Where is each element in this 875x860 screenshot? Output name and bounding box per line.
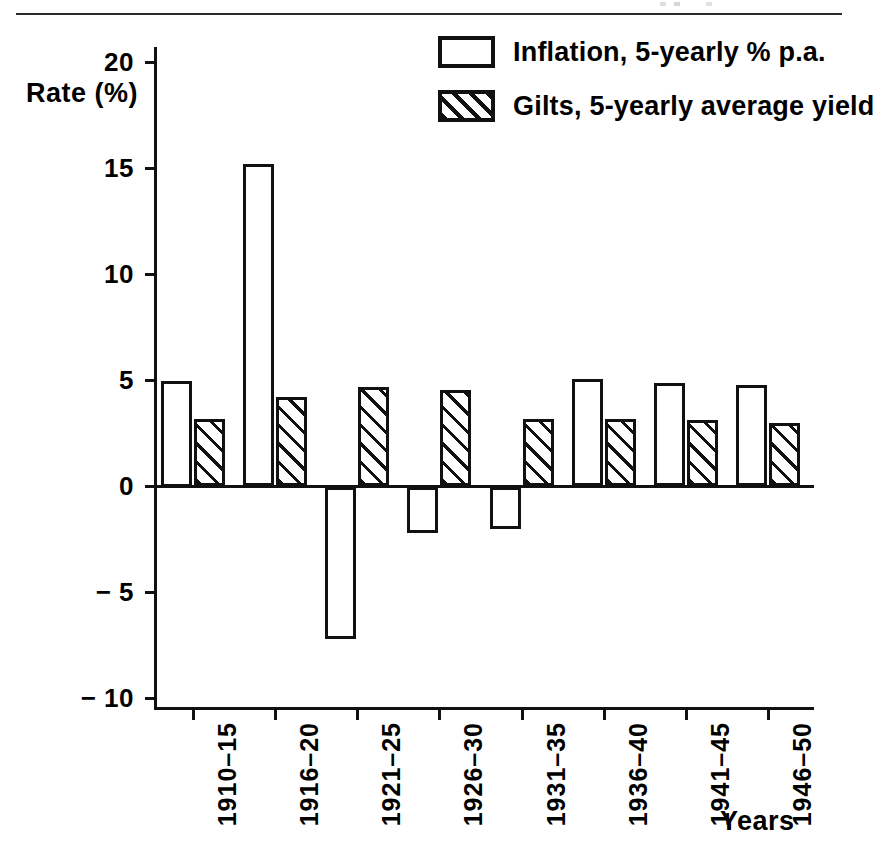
y-tick-10 <box>145 273 156 276</box>
y-tick-neg10 <box>145 697 156 700</box>
legend-label-gilts: Gilts, 5-yearly average yield <box>513 91 875 122</box>
bar-open-1921–25 <box>325 487 356 640</box>
bar-open-1910–15 <box>161 381 192 487</box>
legend-swatch-open-box <box>438 36 495 68</box>
y-tick-label-15: 15 <box>78 155 134 181</box>
bar-hatched-1936–40 <box>605 419 636 487</box>
x-tick-label-7: 1946–50 <box>788 722 817 826</box>
y-tick-5 <box>145 379 156 382</box>
x-axis-line <box>154 707 814 710</box>
bar-hatched-1910–15 <box>194 419 225 487</box>
bar-hatched-1946–50 <box>769 423 800 487</box>
y-tick-label-neg10: − 10 <box>78 685 134 711</box>
y-tick-0 <box>145 485 156 488</box>
chart-legend: Inflation, 5-yearly % p.a. Gilts, 5-year… <box>438 36 818 144</box>
bar-open-1926–30 <box>407 487 438 534</box>
y-tick-label-0: 0 <box>78 473 134 499</box>
y-tick-neg5 <box>145 591 156 594</box>
x-tick-2 <box>356 707 359 720</box>
legend-label-inflation: Inflation, 5-yearly % p.a. <box>513 37 826 68</box>
bar-hatched-1926–30 <box>440 390 471 486</box>
x-tick-1 <box>274 707 277 720</box>
bar-hatched-1921–25 <box>358 387 389 487</box>
bar-open-1936–40 <box>572 379 603 486</box>
bar-open-1946–50 <box>736 385 767 487</box>
bar-hatched-1931–35 <box>523 419 554 487</box>
x-tick-5 <box>603 707 606 720</box>
x-tick-label-0: 1910–15 <box>213 722 242 826</box>
bar-open-1931–35 <box>490 487 521 529</box>
x-tick-0 <box>192 707 195 720</box>
x-tick-6 <box>685 707 688 720</box>
x-tick-3 <box>438 707 441 720</box>
y-axis-title: Rate (%) <box>26 78 138 109</box>
y-axis-line <box>154 47 157 709</box>
bar-open-1941–45 <box>654 383 685 487</box>
bar-open-1916–20 <box>243 164 274 486</box>
x-tick-label-3: 1926–30 <box>459 722 488 826</box>
x-tick-label-2: 1921–25 <box>377 722 406 826</box>
x-tick-label-6: 1941–45 <box>706 722 735 826</box>
y-tick-label-20: 20 <box>78 49 134 75</box>
x-tick-label-1: 1916–20 <box>295 722 324 826</box>
y-tick-label-5: 5 <box>78 367 134 393</box>
y-tick-label-neg5: − 5 <box>78 579 134 605</box>
legend-item-inflation: Inflation, 5-yearly % p.a. <box>438 36 818 68</box>
x-tick-7 <box>767 707 770 720</box>
legend-swatch-hatched-box <box>438 90 495 122</box>
bar-hatched-1941–45 <box>687 420 718 487</box>
x-tick-label-5: 1936–40 <box>624 722 653 826</box>
y-tick-15 <box>145 167 156 170</box>
x-tick-4 <box>521 707 524 720</box>
legend-item-gilts: Gilts, 5-yearly average yield <box>438 90 818 122</box>
y-tick-label-10: 10 <box>78 261 134 287</box>
bar-hatched-1916–20 <box>276 397 307 486</box>
x-tick-label-4: 1931–35 <box>542 722 571 826</box>
y-tick-20 <box>145 61 156 64</box>
